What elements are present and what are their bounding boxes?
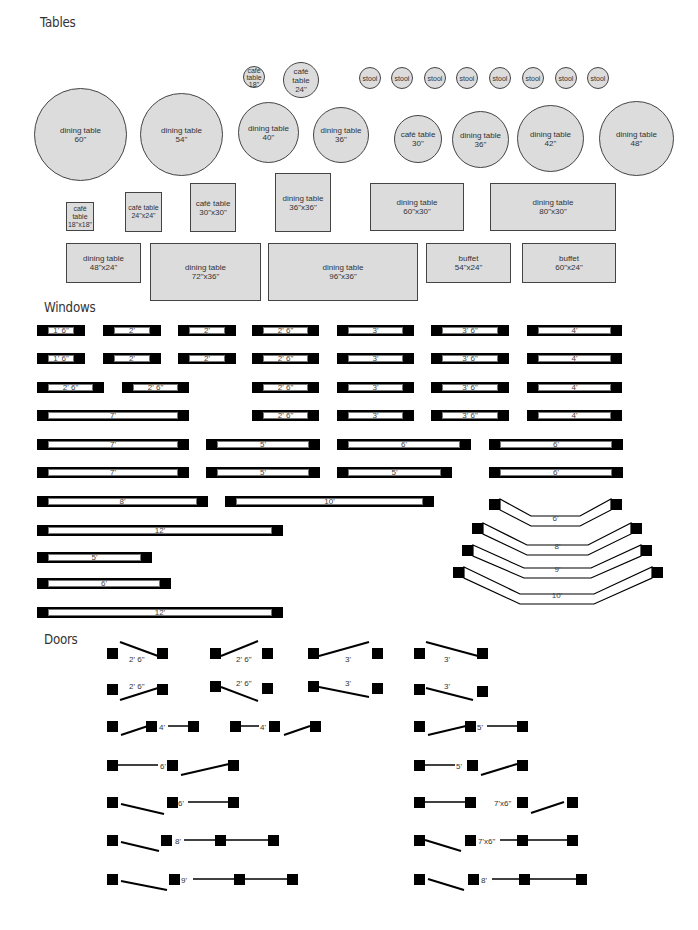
door-jamb bbox=[269, 721, 280, 732]
door-jamb bbox=[167, 797, 178, 808]
door-jamb bbox=[107, 760, 118, 771]
door-label: 8' bbox=[481, 876, 487, 885]
door-label: 7'x6" bbox=[494, 799, 511, 808]
door-jamb bbox=[287, 874, 298, 885]
door[interactable]: 8' bbox=[414, 874, 587, 890]
door-label: 3' bbox=[444, 682, 450, 691]
door[interactable]: 7'x6" bbox=[414, 835, 578, 851]
door-jamb bbox=[517, 721, 528, 732]
door-jamb bbox=[372, 683, 383, 694]
door-jamb bbox=[414, 760, 425, 771]
door-leaf bbox=[121, 804, 164, 814]
door-leaf bbox=[181, 764, 229, 775]
door-jamb bbox=[167, 760, 178, 771]
door[interactable]: 8' bbox=[107, 835, 279, 851]
door[interactable]: 3' bbox=[308, 679, 383, 697]
door[interactable]: 3' bbox=[414, 682, 488, 700]
door-leaf bbox=[120, 642, 158, 656]
door-jamb bbox=[414, 648, 425, 659]
door-jamb bbox=[107, 684, 118, 695]
door-jamb bbox=[310, 721, 321, 732]
door[interactable]: 7'x6" bbox=[414, 797, 578, 813]
door[interactable]: 9' bbox=[107, 874, 298, 890]
door-jamb bbox=[517, 835, 528, 846]
door-label: 6' bbox=[160, 762, 166, 771]
door-label: 5' bbox=[456, 762, 462, 771]
door-leaf bbox=[221, 641, 258, 656]
door-label: 5' bbox=[477, 723, 483, 732]
door-leaf bbox=[481, 764, 517, 775]
door[interactable]: 3' bbox=[414, 642, 488, 664]
door-label: 3' bbox=[345, 655, 351, 664]
door-leaf bbox=[426, 642, 478, 656]
door-jamb bbox=[517, 760, 528, 771]
door-leaf bbox=[319, 642, 369, 656]
door-jamb bbox=[477, 686, 488, 697]
door[interactable]: 2' 6" bbox=[210, 641, 273, 664]
door-jamb bbox=[262, 648, 273, 659]
door[interactable]: 5' bbox=[414, 760, 528, 775]
door-leaf bbox=[531, 802, 564, 813]
door[interactable]: 6' bbox=[107, 797, 239, 814]
door-jamb bbox=[372, 648, 383, 659]
door-label: 3' bbox=[444, 655, 450, 664]
door-jamb bbox=[567, 797, 578, 808]
door-label: 2' 6" bbox=[236, 655, 252, 664]
door[interactable]: 4' bbox=[107, 721, 199, 735]
door-leaf bbox=[319, 687, 369, 697]
door-leaf bbox=[121, 881, 167, 890]
door[interactable]: 4' bbox=[230, 721, 321, 735]
door-jamb bbox=[576, 874, 587, 885]
door-jamb bbox=[215, 835, 226, 846]
door[interactable]: 2' 6" bbox=[107, 682, 168, 700]
door-label: 7'x6" bbox=[478, 837, 495, 846]
door-jamb bbox=[268, 835, 279, 846]
door-jamb bbox=[414, 874, 425, 885]
door-jamb bbox=[414, 797, 425, 808]
door-leaf bbox=[428, 879, 464, 890]
door-jamb bbox=[107, 874, 118, 885]
door-jamb bbox=[468, 874, 479, 885]
door[interactable]: 6' bbox=[107, 760, 239, 775]
door-jamb bbox=[414, 684, 425, 695]
door-jamb bbox=[477, 648, 488, 659]
door[interactable]: 5' bbox=[414, 721, 528, 735]
door-label: 4' bbox=[260, 723, 266, 732]
door-jamb bbox=[465, 835, 476, 846]
door-jamb bbox=[107, 648, 118, 659]
door-label: 2' 6" bbox=[236, 679, 252, 688]
doors-group: 2' 6"2' 6"3'3'2' 6"2' 6"3'3'4'4'5'6'5'6'… bbox=[0, 0, 698, 930]
door-jamb bbox=[107, 835, 118, 846]
door-jamb bbox=[519, 874, 530, 885]
door-jamb bbox=[169, 874, 180, 885]
door-jamb bbox=[228, 760, 239, 771]
door-leaf bbox=[428, 726, 466, 735]
door[interactable]: 3' bbox=[308, 642, 383, 664]
door-jamb bbox=[234, 874, 245, 885]
door-jamb bbox=[308, 681, 319, 692]
door-jamb bbox=[308, 648, 319, 659]
door-label: 8' bbox=[175, 837, 181, 846]
door-label: 4' bbox=[159, 723, 165, 732]
door-jamb bbox=[465, 721, 476, 732]
door[interactable]: 2' 6" bbox=[107, 642, 168, 664]
door-label: 2' 6" bbox=[129, 655, 145, 664]
door-jamb bbox=[157, 684, 168, 695]
door-jamb bbox=[107, 721, 118, 732]
door-jamb bbox=[517, 797, 528, 808]
door-leaf bbox=[284, 726, 310, 735]
door-jamb bbox=[567, 835, 578, 846]
door-leaf bbox=[425, 840, 461, 851]
door-jamb bbox=[262, 683, 273, 694]
door-jamb bbox=[467, 760, 478, 771]
door-label: 9' bbox=[181, 876, 187, 885]
door-jamb bbox=[414, 835, 425, 846]
door-label: 6' bbox=[178, 799, 184, 808]
door-leaf bbox=[221, 687, 258, 701]
door-jamb bbox=[414, 721, 425, 732]
door-jamb bbox=[228, 797, 239, 808]
door-jamb bbox=[230, 721, 241, 732]
door-jamb bbox=[210, 648, 221, 659]
door-jamb bbox=[210, 681, 221, 692]
door[interactable]: 2' 6" bbox=[210, 679, 273, 701]
